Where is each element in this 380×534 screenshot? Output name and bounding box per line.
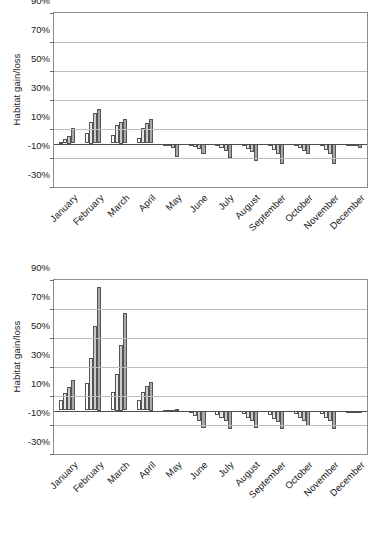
plot-area-top [53, 12, 368, 188]
y-axis-tick-mark [50, 42, 54, 43]
x-axis-label: May [163, 459, 184, 480]
x-axis-label: May [163, 192, 184, 213]
gridline [54, 396, 367, 397]
y-axis-tick-mark [50, 187, 54, 188]
bar [123, 119, 127, 144]
y-axis-tick-label: 90% [6, 262, 50, 273]
plot-area-bottom [53, 279, 368, 455]
y-axis-tick-mark [50, 309, 54, 310]
gridline [54, 338, 367, 339]
y-axis-tick-mark [50, 280, 54, 281]
bar [306, 144, 310, 154]
zero-axis-line [54, 144, 367, 145]
x-axis-label: April [136, 192, 158, 214]
x-axis-label: April [136, 459, 158, 481]
y-axis-tick-mark [50, 100, 54, 101]
bar [149, 119, 153, 144]
y-axis-tick-label: 70% [6, 24, 50, 35]
bar [228, 411, 232, 430]
y-axis-tick-label: 90% [6, 0, 50, 6]
y-axis-tick-mark [50, 454, 54, 455]
y-axis-tick-mark [50, 338, 54, 339]
y-axis-tick-label: -10% [6, 140, 50, 151]
y-axis-tick-mark [50, 71, 54, 72]
y-axis-tick-mark [50, 13, 54, 14]
bar [280, 411, 284, 430]
bar [201, 144, 205, 154]
y-axis-tick-label: 50% [6, 53, 50, 64]
bar [228, 144, 232, 159]
y-axis-tick-label: -30% [6, 169, 50, 180]
y-axis-tick-label: 30% [6, 349, 50, 360]
y-axis-tick-label: 30% [6, 82, 50, 93]
gridline [54, 100, 367, 101]
x-axis-label: June [187, 192, 210, 215]
y-axis-tick-label: 10% [6, 378, 50, 389]
bar [332, 144, 336, 164]
y-axis-tick-mark [50, 425, 54, 426]
x-axis-label: July [216, 459, 236, 479]
chart-top: Habitat gain/loss JanuaryFebruaryMarchAp… [0, 0, 380, 267]
y-axis-tick-label: -30% [6, 436, 50, 447]
bar [280, 144, 284, 164]
x-axis-label: March [105, 192, 132, 219]
y-axis-tick-label: 50% [6, 320, 50, 331]
gridline [54, 425, 367, 426]
chart-bottom: Habitat gain/loss JanuaryFebruaryMarchAp… [0, 267, 380, 534]
gridline [54, 71, 367, 72]
zero-axis-line [54, 411, 367, 412]
x-axis-label: March [105, 459, 132, 486]
y-axis-tick-label: 10% [6, 111, 50, 122]
x-axis-label: July [216, 192, 236, 212]
gridline [54, 158, 367, 159]
x-axis-label: June [187, 459, 210, 482]
y-axis-tick-mark [50, 396, 54, 397]
y-axis-tick-mark [50, 129, 54, 130]
gridline [54, 42, 367, 43]
bar [97, 109, 101, 144]
x-axis-labels-top: JanuaryFebruaryMarchAprilMayJuneJulyAugu… [53, 190, 368, 262]
bar [332, 411, 336, 430]
y-axis-tick-mark [50, 367, 54, 368]
y-axis-tick-label: -10% [6, 407, 50, 418]
gridline [54, 309, 367, 310]
x-axis-labels-bottom: JanuaryFebruaryMarchAprilMayJuneJulyAugu… [53, 457, 368, 529]
y-axis-tick-label: 70% [6, 291, 50, 302]
bar [175, 144, 179, 157]
bar [97, 287, 101, 410]
gridline [54, 129, 367, 130]
y-axis-tick-mark [50, 158, 54, 159]
gridline [54, 367, 367, 368]
